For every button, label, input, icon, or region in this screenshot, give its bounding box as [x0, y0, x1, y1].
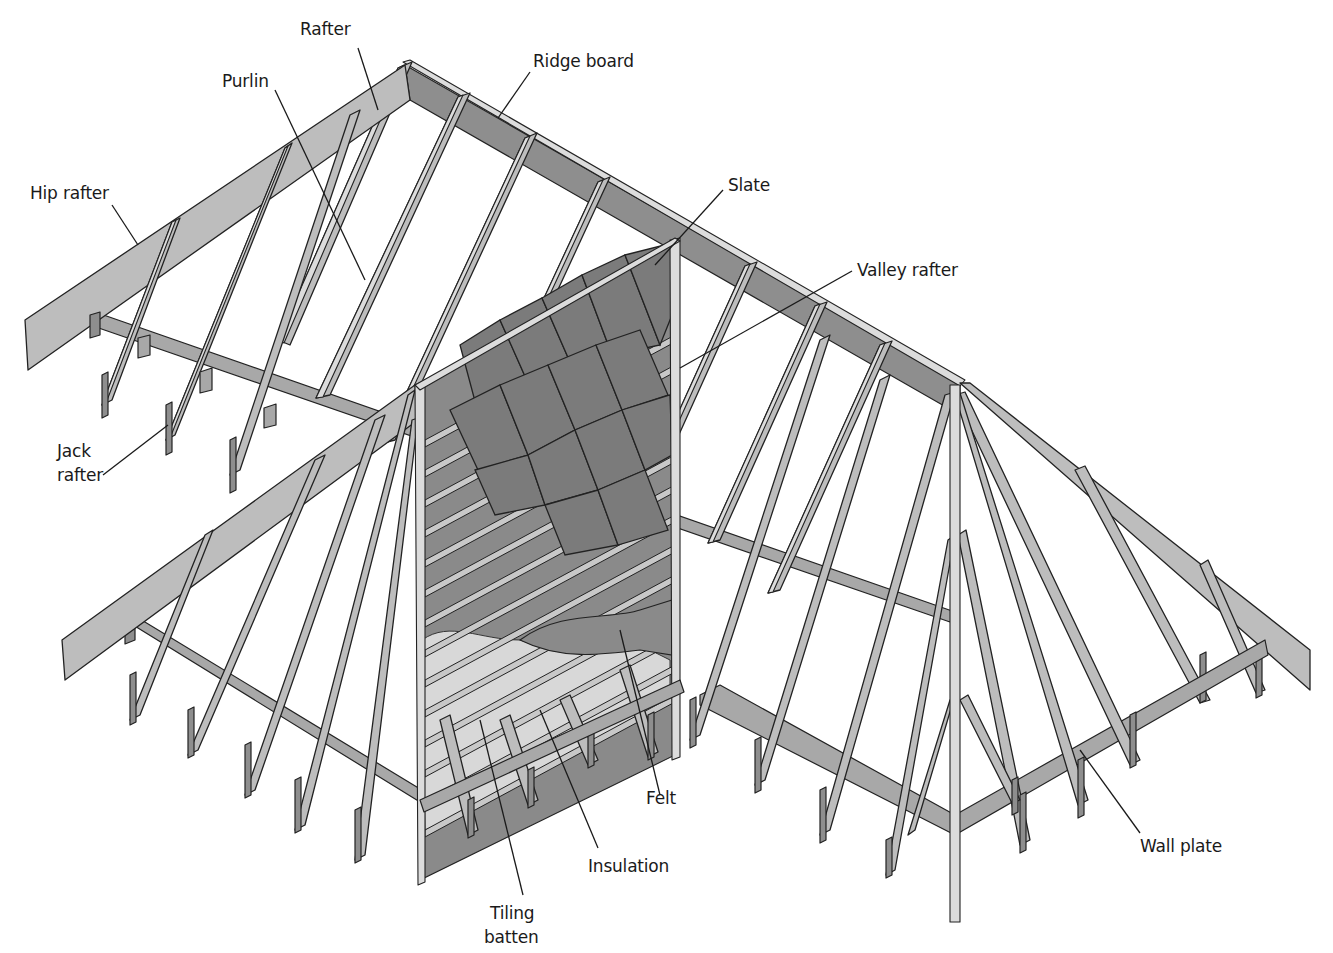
front-left-slope — [62, 385, 430, 863]
leader-jack-rafter — [103, 425, 168, 475]
label-felt: Felt — [646, 787, 676, 809]
label-valley-rafter: Valley rafter — [857, 259, 958, 281]
label-jack-rafter-line2: rafter — [57, 464, 103, 486]
valley-rafter — [950, 385, 960, 922]
label-insulation: Insulation — [588, 855, 669, 877]
roof-diagram — [0, 0, 1333, 953]
label-rafter: Rafter — [300, 18, 350, 40]
label-jack-rafter-line1: Jack — [57, 440, 91, 462]
leader-hip-rafter — [112, 205, 138, 245]
label-ridge-board: Ridge board — [533, 50, 634, 72]
label-hip-rafter: Hip rafter — [30, 182, 109, 204]
label-purlin: Purlin — [222, 70, 269, 92]
label-tiling-batten-line1: Tiling — [490, 902, 534, 924]
label-tiling-batten-line2: batten — [484, 926, 539, 948]
right-slope — [690, 335, 1268, 922]
label-wall-plate: Wall plate — [1140, 835, 1222, 857]
label-slate: Slate — [728, 174, 770, 196]
jack-rafters-upper — [102, 110, 360, 493]
leader-ridge-board — [498, 72, 530, 118]
